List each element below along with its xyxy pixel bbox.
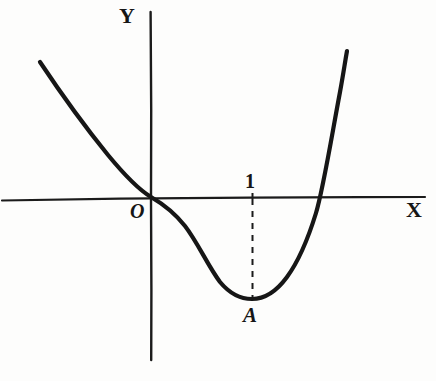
origin-label: O: [130, 201, 144, 221]
x-tick-label-1: 1: [245, 171, 255, 191]
graph-svg: [0, 0, 436, 381]
y-axis-line: [151, 12, 152, 360]
y-axis-label: Y: [119, 5, 135, 27]
plotted-curve: [40, 51, 347, 299]
figure-canvas: Y X O A 1: [0, 0, 436, 381]
x-axis-label: X: [406, 199, 422, 221]
minimum-point-label: A: [243, 305, 257, 326]
x-axis-line: [2, 197, 425, 201]
